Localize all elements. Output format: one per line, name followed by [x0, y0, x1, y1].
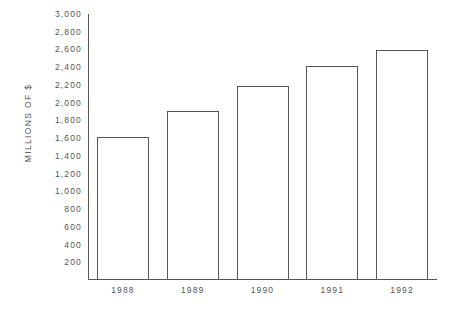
y-axis-tick-label: 2,600 [20, 44, 82, 54]
x-axis-tick-label: 1990 [251, 285, 275, 295]
y-axis-tick-label: 1,200 [20, 169, 82, 179]
bar [167, 111, 219, 279]
y-axis-tick-label: 3,000 [20, 9, 82, 19]
bar [237, 86, 289, 279]
y-axis-tick-labels: 3,0002,8002,6002,4002,2002,0001,8001,600… [20, 0, 82, 310]
bar [97, 137, 149, 279]
x-axis-tick-label: 1989 [181, 285, 205, 295]
bar [306, 66, 358, 279]
y-axis-tick-label: 600 [20, 222, 82, 232]
y-axis-tick-label: 400 [20, 240, 82, 250]
x-axis-tick-label: 1991 [321, 285, 345, 295]
y-axis-tick-label: 800 [20, 204, 82, 214]
plot-area [88, 14, 437, 280]
y-axis-tick-label: 1,600 [20, 133, 82, 143]
y-axis-line [88, 14, 89, 280]
x-axis-line [88, 279, 437, 280]
y-axis-tick-label: 1,800 [20, 115, 82, 125]
y-axis-tick-label: 2,400 [20, 62, 82, 72]
bar [376, 50, 428, 279]
y-axis-tick-label: 1,000 [20, 186, 82, 196]
y-axis-tick-label: 2,800 [20, 27, 82, 37]
y-axis-tick-label: 2,200 [20, 80, 82, 90]
x-axis-tick-label: 1992 [390, 285, 414, 295]
y-axis-tick-label: 1,400 [20, 151, 82, 161]
bar-chart: MILLIONS OF $ 3,0002,8002,6002,4002,2002… [0, 0, 450, 310]
x-axis-tick-labels: 19881989199019911992 [88, 285, 437, 305]
y-axis-tick-label: 200 [20, 257, 82, 267]
y-axis-tick-label: 2,000 [20, 98, 82, 108]
x-axis-tick-label: 1988 [111, 285, 135, 295]
